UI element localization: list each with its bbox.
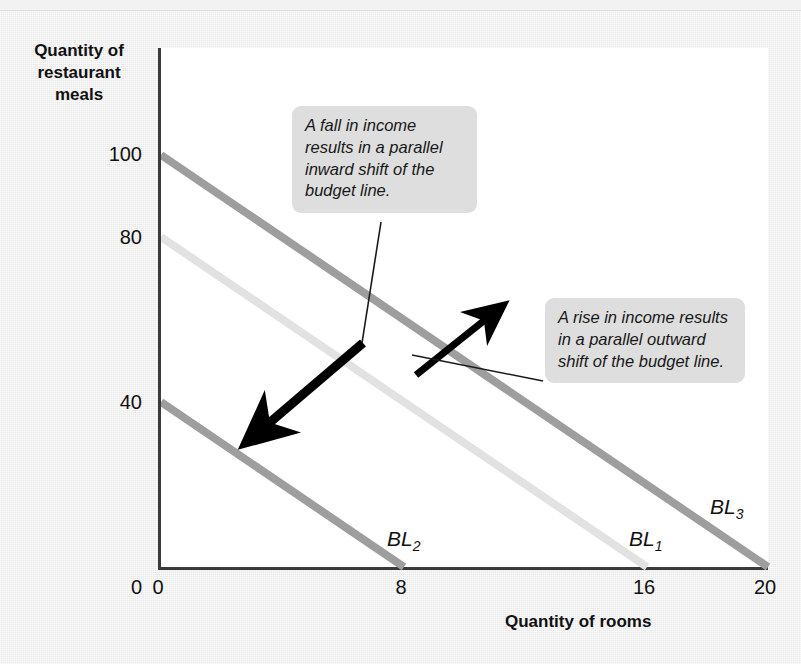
curve-label-bl2-base: BL bbox=[387, 527, 413, 550]
x-tick-8: 8 bbox=[371, 576, 431, 599]
y-axis-title-line-1: Quantity of bbox=[14, 40, 144, 62]
x-axis-title: Quantity of rooms bbox=[505, 612, 651, 632]
outward-shift-arrow-icon bbox=[416, 315, 491, 375]
y-tick-80: 80 bbox=[88, 226, 142, 249]
curve-label-bl1: BL1 bbox=[629, 527, 662, 554]
callout-rise-in-income: A rise in income results in a parallel o… bbox=[545, 298, 745, 383]
curve-label-bl1-sub: 1 bbox=[655, 538, 663, 554]
x-tick-16: 16 bbox=[614, 576, 674, 599]
budget-line-bl1 bbox=[161, 237, 647, 567]
callout-fall-in-income: A fall in income results in a parallel i… bbox=[292, 106, 477, 213]
y-tick-100: 100 bbox=[88, 143, 142, 166]
x-tick-0: 0 bbox=[128, 576, 188, 599]
inward-shift-arrow-icon bbox=[261, 343, 363, 430]
curve-label-bl3-base: BL bbox=[710, 495, 736, 518]
y-axis-title: Quantity of restaurant meals bbox=[14, 40, 144, 105]
page-top-strip bbox=[0, 0, 801, 11]
curve-label-bl3-sub: 3 bbox=[736, 506, 744, 522]
y-axis-title-line-2: restaurant bbox=[14, 62, 144, 84]
curve-label-bl2-sub: 2 bbox=[413, 538, 421, 554]
curve-label-bl1-base: BL bbox=[629, 527, 655, 550]
y-axis-title-line-3: meals bbox=[14, 84, 144, 106]
x-tick-20: 20 bbox=[735, 576, 795, 599]
budget-line-bl2 bbox=[161, 402, 404, 567]
curve-label-bl3: BL3 bbox=[710, 495, 743, 522]
y-tick-40: 40 bbox=[88, 391, 142, 414]
curve-label-bl2: BL2 bbox=[387, 527, 420, 554]
